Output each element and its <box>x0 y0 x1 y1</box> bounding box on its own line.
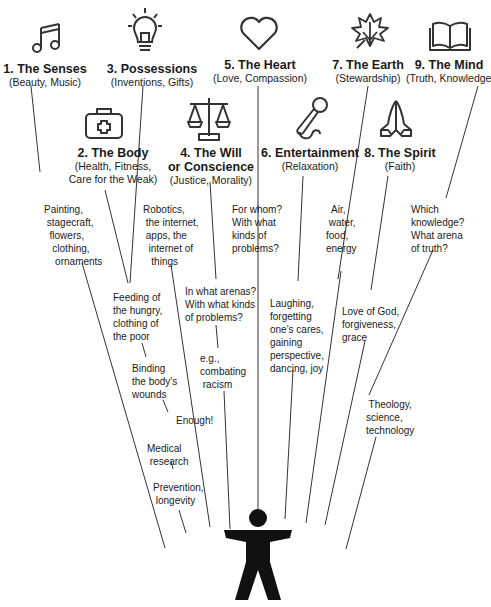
note-body-feeding: Feeding of the hungry, clothing of the p… <box>113 291 162 343</box>
category-title-line1: 4. The Will <box>166 146 256 160</box>
category-title: 1. The Senses <box>2 62 88 76</box>
category-spirit: 8. The Spirit (Faith) <box>360 146 440 173</box>
diagram-canvas: 1. The Senses (Beauty, Music) 3. Possess… <box>0 0 491 607</box>
person-figure-icon <box>224 508 292 600</box>
category-subtitle-line1: (Health, Fitness, <box>66 160 160 173</box>
category-title-line2: or Conscience <box>166 160 256 174</box>
first-aid-kit-icon <box>84 106 124 140</box>
category-subtitle-line2: Care for the Weak) <box>66 173 160 186</box>
note-spirit: Love of God, forgiveness, grace <box>342 305 399 344</box>
category-title: 5. The Heart <box>212 58 308 72</box>
category-earth: 7. The Earth (Stewardship) <box>328 58 408 85</box>
category-mind: 9. The Mind (Truth, Knowledge) <box>406 58 491 85</box>
note-earth: Air, water, food, energy <box>326 203 357 255</box>
microphone-icon <box>290 96 330 142</box>
note-heart: For whom? With what kinds of problems? <box>232 203 282 255</box>
category-entertainment: 6. Entertainment (Relaxation) <box>258 146 362 173</box>
note-mind: Which knowledge? What arena of truth? <box>411 203 464 255</box>
music-note-icon <box>28 22 64 54</box>
open-book-icon <box>428 18 472 52</box>
category-subtitle: (Relaxation) <box>258 160 362 173</box>
leaf-icon <box>349 10 391 52</box>
category-subtitle: (Inventions, Gifts) <box>104 76 200 89</box>
light-bulb-icon <box>125 6 165 54</box>
category-body: 2. The Body (Health, Fitness, Care for t… <box>66 146 160 186</box>
note-will: In what arenas? With what kinds of probl… <box>185 285 256 324</box>
category-title: 8. The Spirit <box>360 146 440 160</box>
note-senses: Painting, stagecraft, flowers, clothing,… <box>44 203 102 268</box>
category-subtitle: (Beauty, Music) <box>2 76 88 89</box>
note-possessions: Robotics, the internet, apps, the intern… <box>143 203 199 268</box>
category-title: 9. The Mind <box>406 58 491 72</box>
scales-icon <box>186 96 232 142</box>
category-senses: 1. The Senses (Beauty, Music) <box>2 62 88 89</box>
category-heart: 5. The Heart (Love, Compassion) <box>212 58 308 85</box>
category-title: 3. Possessions <box>104 62 200 76</box>
note-body-wounds: Binding the body's wounds <box>132 362 177 401</box>
category-subtitle: (Stewardship) <box>328 72 408 85</box>
category-title: 2. The Body <box>66 146 160 160</box>
praying-hands-icon <box>377 98 415 140</box>
category-title: 7. The Earth <box>328 58 408 72</box>
category-title: 6. Entertainment <box>258 146 362 160</box>
category-subtitle: (Faith) <box>360 160 440 173</box>
category-will: 4. The Will or Conscience (Justice, Mora… <box>166 146 256 187</box>
note-will-example: e.g., combating racism <box>200 352 246 391</box>
note-enough: Enough! <box>176 414 213 427</box>
category-subtitle: (Love, Compassion) <box>212 72 308 85</box>
category-subtitle: (Justice, Morality) <box>166 174 256 187</box>
note-mind-theology: Theology, science, technology <box>366 398 414 437</box>
category-subtitle: (Truth, Knowledge) <box>406 72 491 85</box>
note-body-medical: Medical research <box>147 442 189 468</box>
note-body-prevention: Prevention, longevity <box>153 481 204 507</box>
category-possessions: 3. Possessions (Inventions, Gifts) <box>104 62 200 89</box>
heart-icon <box>238 16 280 52</box>
note-entertainment: Laughing, forgetting one's cares, gainin… <box>270 297 324 375</box>
